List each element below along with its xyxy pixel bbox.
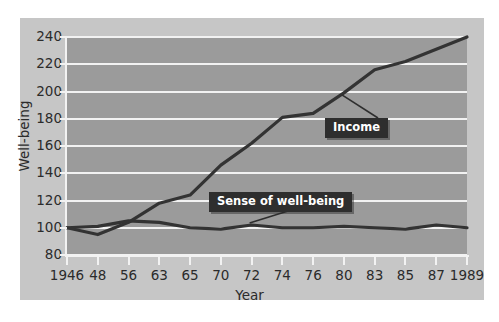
x-tick-label: 63: [151, 269, 168, 283]
x-tick-label: 1946: [50, 269, 84, 283]
y-tick-mark: [60, 91, 67, 93]
x-tick-label: 56: [120, 269, 137, 283]
x-tick-mark: [312, 257, 314, 265]
chart-figure: 24022020018016014012010080 Well-being Ye…: [0, 0, 499, 322]
x-tick-label: 83: [366, 269, 383, 283]
x-tick-label: 48: [89, 269, 106, 283]
x-tick-mark: [435, 257, 437, 265]
x-tick-label: 74: [274, 269, 291, 283]
x-tick-label: 70: [212, 269, 229, 283]
x-tick-mark: [466, 257, 468, 265]
y-tick-label: 80: [24, 248, 62, 262]
x-tick-label: 72: [243, 269, 260, 283]
y-tick-mark: [60, 36, 67, 38]
x-tick-label: 76: [305, 269, 322, 283]
series-lines: [67, 37, 467, 255]
x-tick-mark: [128, 257, 130, 265]
y-tick-label: 100: [24, 221, 62, 235]
callout-income: Income: [325, 118, 388, 138]
x-axis-line: [65, 255, 469, 257]
y-tick-mark: [60, 145, 67, 147]
x-tick-mark: [404, 257, 406, 265]
x-tick-label: 65: [181, 269, 198, 283]
y-tick-label: 120: [24, 194, 62, 208]
series-line: [67, 221, 467, 229]
y-tick-mark: [60, 172, 67, 174]
x-axis-title: Year: [0, 287, 499, 303]
y-axis-title: Well-being: [16, 101, 32, 172]
x-tick-mark: [281, 257, 283, 265]
x-tick-mark: [158, 257, 160, 265]
x-tick-label: 1989: [450, 269, 484, 283]
y-tick-mark: [60, 118, 67, 120]
x-tick-mark: [189, 257, 191, 265]
y-tick-mark: [60, 200, 67, 202]
x-tick-mark: [374, 257, 376, 265]
x-tick-mark: [220, 257, 222, 265]
x-tick-label: 85: [397, 269, 414, 283]
y-tick-label: 200: [24, 85, 62, 99]
x-tick-mark: [97, 257, 99, 265]
x-tick-mark: [343, 257, 345, 265]
y-tick-mark: [60, 63, 67, 65]
x-tick-label: 87: [428, 269, 445, 283]
y-tick-label: 220: [24, 57, 62, 71]
x-tick-mark: [66, 257, 68, 265]
y-tick-mark: [60, 254, 67, 256]
x-tick-mark: [251, 257, 253, 265]
y-tick-mark: [60, 227, 67, 229]
x-tick-label: 80: [335, 269, 352, 283]
callout-sense-of-well-being: Sense of well-being: [209, 192, 352, 212]
y-tick-label: 240: [24, 30, 62, 44]
